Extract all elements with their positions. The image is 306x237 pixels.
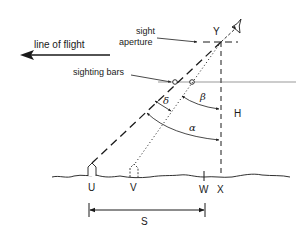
- sight-aperture-label-line2: aperture: [119, 37, 153, 47]
- dotted-line-to-V: [134, 42, 221, 165]
- line-of-flight-arrow: [20, 50, 110, 60]
- angle-beta-label: β: [199, 91, 206, 102]
- distance-S-label: S: [141, 216, 148, 227]
- angle-delta-label: δ: [163, 95, 169, 106]
- point-X-label: X: [217, 184, 224, 195]
- target-U-icon: [88, 163, 96, 176]
- sight-line-to-U: [92, 42, 221, 163]
- sight-line-to-eye: [221, 28, 236, 42]
- point-V-label: V: [130, 182, 137, 193]
- sighting-bar-rear: [190, 80, 195, 85]
- point-Y-label: Y: [213, 26, 220, 37]
- line-of-flight-label: line of flight: [34, 39, 85, 50]
- point-U-label: U: [88, 182, 95, 193]
- sighting-bars-label: sighting bars: [73, 67, 125, 77]
- sight-aperture-label-line1: sight: [136, 26, 156, 36]
- point-W-label: W: [199, 184, 209, 195]
- target-V-icon: [130, 164, 138, 177]
- diagram-canvas: line of flight sight aperture sighting b…: [0, 0, 306, 237]
- sighting-bars-arrow: [131, 75, 171, 82]
- bombsight-geometry-diagram: line of flight sight aperture sighting b…: [0, 0, 306, 237]
- height-H-label: H: [234, 108, 241, 119]
- angle-alpha-label: α: [189, 122, 196, 133]
- angle-alpha-arc: [147, 113, 219, 140]
- sighting-bar-front: [173, 80, 178, 85]
- sight-aperture-arrow: [157, 38, 197, 42]
